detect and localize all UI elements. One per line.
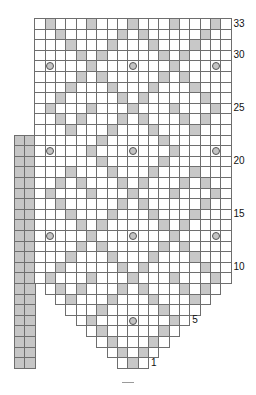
row-label-30: 30 (234, 50, 245, 60)
side-bar-cell (24, 347, 35, 359)
circle-symbol-icon (129, 232, 137, 240)
footer-mark (122, 382, 134, 383)
stitch-cell (210, 283, 221, 295)
knitting-chart: 33302520151051 (0, 0, 256, 395)
circle-symbol-icon (212, 232, 220, 240)
stitch-cell (138, 357, 149, 369)
circle-symbol-icon (129, 317, 137, 325)
row-label-15: 15 (234, 209, 245, 219)
side-bar-cell (24, 304, 35, 316)
stitch-cell (220, 272, 231, 284)
row-label-25: 25 (234, 103, 245, 113)
row-label-20: 20 (234, 156, 245, 166)
stitch-cell (200, 294, 211, 306)
stitch-cell (158, 336, 169, 348)
row-label-1: 1 (151, 358, 157, 368)
side-bar-cell (24, 357, 35, 369)
stitch-cell (169, 325, 180, 337)
side-bar-cell (24, 325, 35, 337)
row-label-10: 10 (234, 262, 245, 272)
circle-symbol-icon (129, 147, 137, 155)
side-bar-cell (24, 315, 35, 327)
row-label-33: 33 (234, 19, 245, 29)
circle-symbol-icon (212, 147, 220, 155)
side-bar-cell (24, 336, 35, 348)
stitch-cell (179, 315, 190, 327)
circle-symbol-icon (212, 62, 220, 70)
side-bar-cell (24, 294, 35, 306)
row-label-5: 5 (192, 315, 198, 325)
side-bar-cell (24, 283, 35, 295)
